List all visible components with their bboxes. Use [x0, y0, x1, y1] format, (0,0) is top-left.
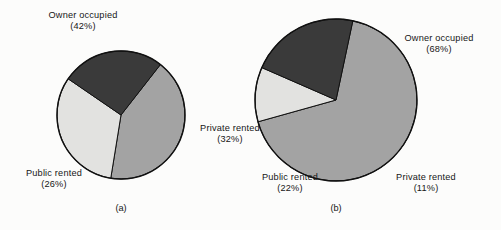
- caption-a: (a): [91, 203, 151, 213]
- pie-b-label-private-rented-value: (11%): [376, 183, 476, 194]
- pie-b-label-private-rented-name: Private rented: [396, 172, 456, 182]
- pie-a-label-private-rented: Private rented (32%): [180, 123, 280, 146]
- pie-b-label-public-rented-name: Public rented: [262, 172, 318, 182]
- pie-a-label-owner-occupied-name: Owner occupied: [49, 10, 118, 20]
- pie-b-label-private-rented: Private rented (11%): [376, 172, 476, 195]
- pie-b-label-owner-occupied: Owner occupied (68%): [384, 33, 494, 56]
- pie-a-label-private-rented-value: (32%): [180, 134, 280, 145]
- pie-a-label-public-rented-value: (26%): [4, 179, 104, 190]
- pie-b-label-public-rented-value: (22%): [240, 183, 340, 194]
- pie-b-label-owner-occupied-name: Owner occupied: [405, 33, 474, 43]
- pie-a-label-private-rented-name: Private rented: [200, 123, 260, 133]
- caption-b: (b): [306, 203, 366, 213]
- pie-b-label-public-rented: Public rented (22%): [240, 172, 340, 195]
- pie-a-label-public-rented: Public rented (26%): [4, 168, 104, 191]
- pie-chart-a: [57, 51, 185, 179]
- pie-b-label-owner-occupied-value: (68%): [384, 44, 494, 55]
- pie-a-label-owner-occupied-value: (42%): [28, 21, 138, 32]
- pie-chart-figure: Owner occupied (42%) Private rented (32%…: [0, 0, 501, 230]
- pie-a-label-public-rented-name: Public rented: [26, 168, 82, 178]
- pie-a-label-owner-occupied: Owner occupied (42%): [28, 10, 138, 33]
